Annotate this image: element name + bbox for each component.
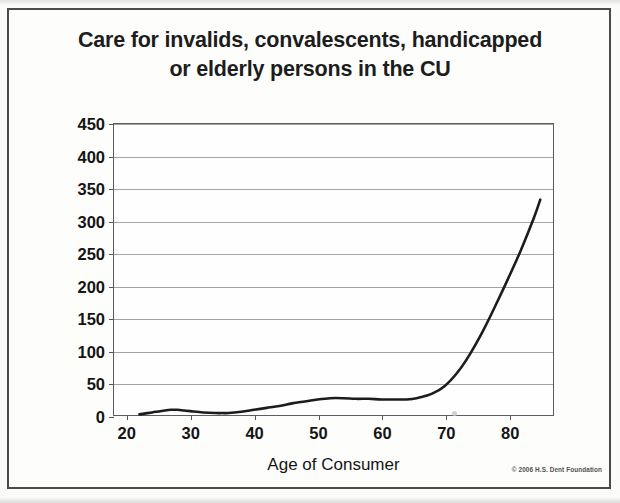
y-axis-tick-label: 50 [87, 375, 105, 394]
chart-figure: Care for invalids, convalescents, handic… [0, 0, 620, 503]
x-axis-tick [255, 415, 256, 420]
x-axis-tick [446, 415, 447, 420]
x-axis-tick-label: 80 [501, 424, 519, 443]
x-axis-tick [127, 415, 128, 420]
y-axis-tick-label: 150 [77, 310, 105, 329]
y-axis-tick-label: 100 [77, 342, 105, 361]
y-axis-tick-label: 200 [77, 277, 105, 296]
plot-area: 050100150200250300350400450 203040506070… [113, 123, 554, 416]
x-axis-tick-label: 70 [437, 424, 455, 443]
chart-title-line-2: or elderly persons in the CU [30, 55, 590, 84]
y-axis-title: Avg. Annual Expenditure [0, 0, 1, 117]
y-axis-tick-label: 350 [77, 180, 105, 199]
y-axis-tick-label: 0 [96, 408, 105, 427]
x-axis-tick [382, 415, 383, 420]
y-axis-tick-label: 250 [77, 245, 105, 264]
x-axis-tick-label: 20 [118, 424, 136, 443]
x-axis-title: Age of Consumer [113, 455, 554, 475]
chart-title: Care for invalids, convalescents, handic… [30, 26, 590, 84]
chart-title-line-1: Care for invalids, convalescents, handic… [30, 26, 590, 55]
x-axis-tick-label: 30 [182, 424, 200, 443]
x-axis-tick-label: 40 [245, 424, 263, 443]
series-path-expenditure [139, 200, 540, 415]
x-axis-tick [319, 415, 320, 420]
x-axis-tick [191, 415, 192, 420]
series-line [114, 124, 553, 415]
scan-edge-bottom [0, 497, 620, 503]
scan-edge-top [0, 0, 620, 5]
y-axis-tick-label: 450 [77, 115, 105, 134]
copyright-notice: © 2006 H.S. Dent Foundation [512, 466, 602, 473]
scan-speckle [452, 411, 457, 416]
x-axis-tick-label: 50 [309, 424, 327, 443]
x-axis-tick [510, 415, 511, 420]
y-axis-tick-label: 400 [77, 147, 105, 166]
x-axis-tick-label: 60 [373, 424, 391, 443]
y-axis-tick [109, 417, 114, 418]
y-axis-tick-label: 300 [77, 212, 105, 231]
